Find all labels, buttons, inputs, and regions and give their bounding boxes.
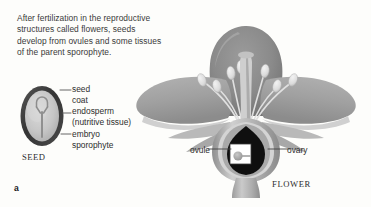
embryo-sporophyte-label: embryo sporophyte xyxy=(72,129,113,150)
flower-cross-section-diagram xyxy=(130,18,360,198)
panel-letter-label: a xyxy=(14,183,19,193)
seed-coat-label: seed coat xyxy=(72,84,90,105)
pedicel-shape xyxy=(232,178,260,198)
ovule-body-shape xyxy=(233,151,242,160)
pistil-style-shape xyxy=(240,54,252,122)
ovary-label: ovary xyxy=(287,145,307,155)
seed-diagram-title: SEED xyxy=(22,152,45,162)
figure-panel: After fertilization in the reproductive … xyxy=(0,0,371,207)
flower-diagram-title: FLOWER xyxy=(272,179,311,189)
stigma-shape xyxy=(238,52,254,59)
ovule-label: ovule xyxy=(190,145,210,155)
endosperm-label: endosperm (nutritive tissue) xyxy=(72,106,131,127)
